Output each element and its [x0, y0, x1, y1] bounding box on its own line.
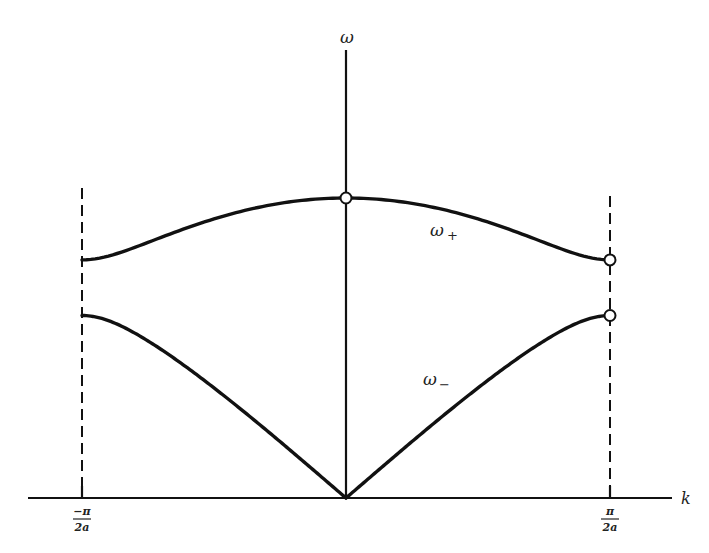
k-axis-label: k [681, 489, 691, 508]
branch-markers [341, 193, 616, 322]
dispersion-diagram: ω k −π 2a π 2a ω+ ω− [0, 0, 709, 553]
optical-branch-label: ω+ [430, 220, 458, 243]
optical-branch-label-subscript: + [447, 228, 458, 243]
tick-label-minus-pi-over-2a: −π 2a [73, 505, 92, 534]
branch-marker-plus-k0 [341, 193, 352, 204]
branch-marker-plus-k1 [605, 254, 616, 265]
tick-label-left-denominator: 2a [74, 521, 90, 534]
optical-branch-label-symbol: ω [430, 220, 444, 240]
omega-axis-label: ω [340, 27, 354, 47]
tick-label-left-numerator: −π [73, 505, 91, 518]
tick-label-right-numerator: π [605, 505, 615, 518]
acoustic-branch-label-symbol: ω [423, 369, 437, 389]
acoustic-branch-curve-right [346, 316, 610, 498]
branch-marker-minus-k1 [605, 310, 616, 321]
acoustic-branch-label-subscript: − [439, 377, 450, 392]
tick-label-pi-over-2a: π 2a [601, 505, 619, 534]
tick-label-right-denominator: 2a [602, 521, 618, 534]
acoustic-branch-label: ω− [423, 369, 450, 392]
acoustic-branch-curve-left [82, 316, 346, 498]
